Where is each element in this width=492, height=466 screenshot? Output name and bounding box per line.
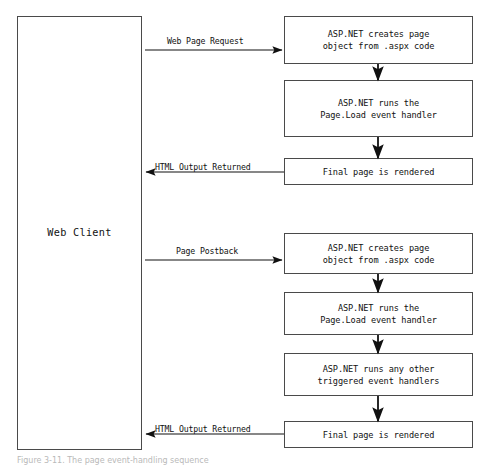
edge-label-edge-web-page-request: Web Page Request — [167, 36, 243, 46]
edge-label-edge-html-output-returned-1: HTML Output Returned — [155, 162, 251, 172]
process-box-post-render: Final page is rendered — [284, 421, 473, 448]
edge-label-edge-html-output-returned-2: HTML Output Returned — [155, 424, 251, 434]
process-box-post-create: ASP.NET creates page object from .aspx c… — [284, 233, 473, 274]
process-box-label: ASP.NET creates page object from .aspx c… — [323, 242, 435, 266]
process-box-req-create: ASP.NET creates page object from .aspx c… — [284, 16, 473, 64]
web-client-box: Web Client — [17, 16, 142, 450]
aspnet-lifecycle-diagram: Web Client ASP.NET creates page object f… — [0, 0, 492, 466]
process-box-label: ASP.NET runs any other triggered event h… — [318, 363, 440, 387]
edge-label-edge-page-postback: Page Postback — [176, 246, 238, 256]
process-box-label: Final page is rendered — [323, 166, 435, 178]
process-box-post-load: ASP.NET runs the Page.Load event handler — [284, 292, 473, 335]
process-box-req-render: Final page is rendered — [284, 158, 473, 185]
web-client-label: Web Client — [47, 227, 111, 239]
process-box-label: ASP.NET creates page object from .aspx c… — [323, 28, 435, 52]
process-box-label: Final page is rendered — [323, 429, 435, 441]
process-box-label: ASP.NET runs the Page.Load event handler — [320, 302, 437, 326]
process-box-req-load: ASP.NET runs the Page.Load event handler — [284, 80, 473, 137]
figure-caption: Figure 3-11. The page event-handling seq… — [17, 456, 209, 466]
process-box-label: ASP.NET runs the Page.Load event handler — [320, 97, 437, 121]
process-box-post-other: ASP.NET runs any other triggered event h… — [284, 353, 473, 396]
